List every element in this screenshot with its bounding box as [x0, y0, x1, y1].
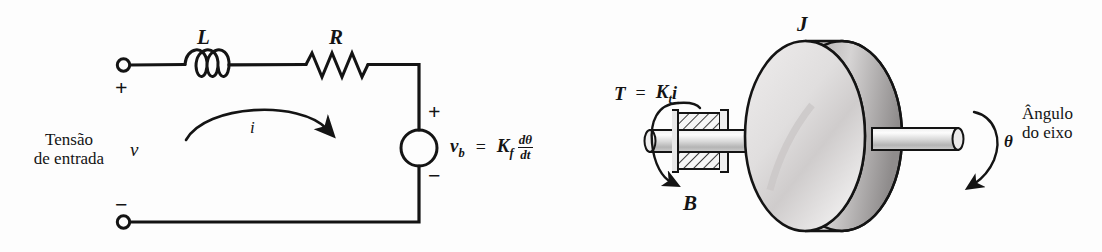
- source-plus-sign: +: [428, 100, 441, 125]
- torque-symbol: T: [614, 83, 626, 104]
- torque-gain: Kt: [656, 81, 672, 106]
- back-emf-symbol: vb: [450, 135, 465, 160]
- input-voltage-caption-line2: de entrada: [34, 149, 104, 168]
- inertia-label: J: [797, 13, 808, 37]
- terminal-minus-sign: −: [115, 193, 128, 218]
- angle-symbol: θ: [1004, 132, 1013, 151]
- circuit-group: [117, 50, 437, 228]
- voltage-source-circle: [401, 130, 437, 166]
- torque-equation: T = Kti: [614, 81, 677, 106]
- input-voltage-symbol: v: [130, 139, 138, 160]
- terminal-plus-sign: +: [115, 76, 128, 101]
- torque-equals: =: [630, 83, 652, 103]
- resistor-label: R: [329, 26, 343, 50]
- angle-caption: Ângulo do eixo: [1022, 104, 1073, 142]
- inductor-coils: [185, 50, 229, 77]
- wire-top-right: [368, 65, 419, 131]
- shaft-output: [872, 128, 964, 150]
- back-emf-equals: =: [469, 137, 493, 157]
- torque-rotation-arrow-tail: [678, 103, 700, 108]
- back-emf-equation: vb = Kf dθ dt: [450, 133, 533, 161]
- dc-motor-figure: Tensão de entrada v L R i + − + − vb = K…: [0, 0, 1102, 252]
- mechanical-group: [645, 41, 998, 231]
- source-minus-sign: −: [428, 164, 441, 189]
- terminal-bottom-circle: [117, 216, 129, 228]
- wire-top-left: [130, 65, 185, 66]
- angle-caption-line1: Ângulo: [1022, 104, 1073, 123]
- torque-current: i: [672, 83, 677, 103]
- angle-caption-line2: do eixo: [1022, 123, 1073, 142]
- current-direction-arrow: [186, 110, 327, 140]
- wire-bottom: [131, 166, 419, 222]
- back-emf-derivative: dθ dt: [518, 133, 533, 161]
- input-voltage-caption: Tensão de entrada: [14, 130, 124, 168]
- figure-svg: [0, 0, 1102, 252]
- back-emf-gain: Kf: [497, 135, 514, 160]
- input-voltage-caption-line1: Tensão: [45, 130, 93, 149]
- resistor-zigzag: [306, 53, 368, 77]
- damping-label: B: [683, 192, 697, 216]
- current-label: i: [250, 118, 255, 137]
- derivative-denominator: dt: [518, 147, 533, 162]
- terminal-top-circle: [117, 59, 129, 71]
- derivative-numerator: dθ: [518, 133, 533, 147]
- inductor-label: L: [197, 26, 210, 50]
- angle-rotation-arrow: [974, 112, 997, 184]
